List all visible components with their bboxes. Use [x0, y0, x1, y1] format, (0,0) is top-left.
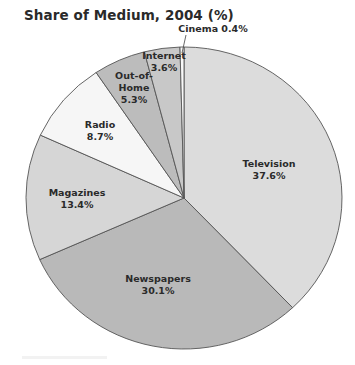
pie-slices [26, 47, 342, 349]
slice-label-radio: Radio8.7% [85, 119, 116, 142]
footer-note [22, 356, 107, 359]
pie-chart: Television37.6%Newspapers30.1%Magazines1… [0, 0, 355, 365]
slice-label-cinema: Cinema 0.4% [178, 23, 248, 34]
